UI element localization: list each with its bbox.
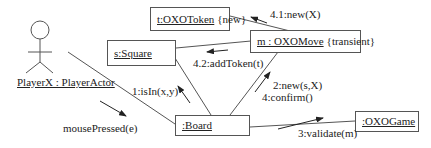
object-name: s:Square xyxy=(114,48,152,59)
object-token[interactable]: t:OXOToken {new} xyxy=(150,7,230,31)
object-game[interactable]: :OXOGame xyxy=(355,111,419,132)
object-name: t:OXOToken xyxy=(157,14,214,25)
object-name: m : OXOMove xyxy=(257,36,324,47)
message-label-validate: 3:validate(m) xyxy=(298,127,357,139)
object-move[interactable]: m : OXOMove {transient} xyxy=(250,30,361,53)
object-board[interactable]: :Board xyxy=(175,115,250,136)
message-label-confirm: 4:confirm() xyxy=(262,91,313,103)
actor-label: PlayerX : PlayerActor xyxy=(17,76,115,88)
object-name: :Board xyxy=(182,120,212,131)
object-name: :OXOGame xyxy=(362,116,415,127)
object-stereotype: {transient} xyxy=(327,36,375,47)
object-stereotype: {new} xyxy=(217,14,246,25)
message-label-mousepressed: mousePressed(e) xyxy=(63,122,138,134)
message-label-isin: 1:isIn(x,y) xyxy=(132,85,178,97)
actor-figure-icon xyxy=(26,21,53,73)
message-label-new-move: 2:new(s,X) xyxy=(273,79,322,91)
object-square[interactable]: s:Square xyxy=(107,40,176,66)
message-label-addtoken: 4.2:addToken(t) xyxy=(193,57,263,69)
message-label-new-token: 4.1:new(X) xyxy=(270,8,320,20)
